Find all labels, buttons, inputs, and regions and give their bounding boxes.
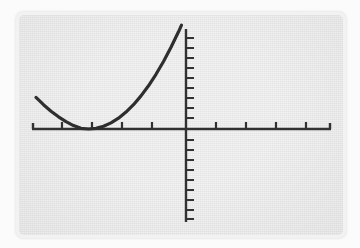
figure-page (0, 0, 360, 248)
parabola-curve (36, 25, 182, 129)
graph-plot (19, 15, 343, 235)
calculator-screen (19, 15, 343, 235)
